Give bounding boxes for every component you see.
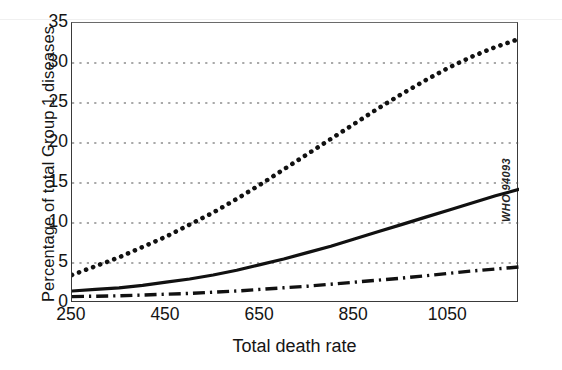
series-dotted-series xyxy=(72,39,519,275)
who-credit-label: WHO 94093 xyxy=(500,122,516,222)
series-solid-series xyxy=(72,189,519,291)
series-dash-dot-series xyxy=(72,267,519,297)
chart-canvas xyxy=(72,23,519,303)
plot-area xyxy=(71,22,518,302)
x-tick-label-650: 650 xyxy=(245,306,274,324)
x-tick-label-450: 450 xyxy=(150,306,179,324)
x-tick-label-850: 850 xyxy=(339,306,368,324)
x-tick-label-250: 250 xyxy=(56,306,85,324)
chart-figure: Percentage of total Group 1 diseases Tot… xyxy=(0,0,562,370)
x-tick-label-1050: 1050 xyxy=(428,306,467,324)
